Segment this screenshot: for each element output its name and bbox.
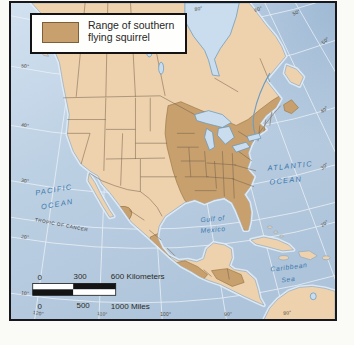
bahamas xyxy=(267,226,272,228)
range-swatch xyxy=(42,22,79,43)
svg-text:0: 0 xyxy=(37,302,42,311)
map: PACIFIC OCEAN ATLANTIC OCEAN Gulf of Mex… xyxy=(9,1,337,321)
svg-text:300: 300 xyxy=(74,273,88,282)
svg-text:1000 Miles: 1000 Miles xyxy=(111,302,150,311)
svg-text:600 Kilometers: 600 Kilometers xyxy=(111,273,165,282)
svg-text:110°: 110° xyxy=(97,311,108,317)
lake-winnipeg xyxy=(159,62,164,74)
svg-text:100°: 100° xyxy=(160,312,171,317)
svg-text:500: 500 xyxy=(77,301,91,310)
lake-maracaibo xyxy=(310,293,316,300)
legend: Range of southern flying squirrel xyxy=(30,13,187,54)
legend-label: Range of southern flying squirrel xyxy=(88,19,186,44)
svg-text:90°: 90° xyxy=(224,311,232,317)
puerto-rico xyxy=(322,256,330,260)
svg-text:0: 0 xyxy=(37,273,42,282)
figure-canvas: { "legend": { "line1": "Range of souther… xyxy=(0,0,354,345)
jamaica xyxy=(279,256,289,260)
